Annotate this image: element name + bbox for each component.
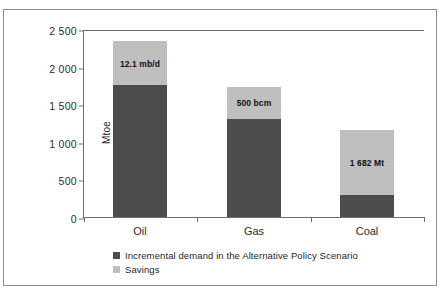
stacked-bar-coal[interactable]: 1 682 Mt — [340, 130, 394, 217]
bar-group-oil: 12.1 mb/d Oil — [113, 31, 167, 217]
legend-label-demand: Incremental demand in the Alternative Po… — [125, 250, 358, 261]
x-axis-label-gas: Gas — [244, 225, 264, 237]
y-tick-label-1500: 1 500 — [49, 100, 84, 112]
bar-segment-savings-gas[interactable]: 500 bcm — [227, 87, 281, 119]
legend-item-demand[interactable]: Incremental demand in the Alternative Po… — [113, 250, 358, 261]
legend-label-savings: Savings — [125, 264, 160, 275]
bar-annotation-oil: 12.1 mb/d — [113, 59, 167, 69]
x-axis-label-oil: Oil — [133, 225, 146, 237]
bar-segment-savings-coal[interactable]: 1 682 Mt — [340, 130, 394, 195]
legend-swatch-savings-icon — [113, 266, 120, 273]
x-tick-mark-1 — [197, 217, 198, 222]
bar-segment-demand-coal[interactable] — [340, 195, 394, 217]
y-tick-label-500: 500 — [59, 175, 84, 187]
stacked-bar-gas[interactable]: 500 bcm — [227, 87, 281, 217]
bar-annotation-gas: 500 bcm — [227, 98, 281, 108]
x-tick-mark-3 — [424, 217, 425, 222]
y-tick-label-0: 0 — [71, 213, 84, 225]
plot-area: Mtoe 2 500 2 000 1 500 1 000 500 0 12.1 … — [83, 30, 424, 218]
y-tick-label-2000: 2 000 — [49, 63, 84, 75]
bar-group-gas: 500 bcm Gas — [227, 31, 281, 217]
x-tick-mark-0 — [84, 217, 85, 222]
y-tick-label-2500: 2 500 — [49, 25, 84, 37]
y-axis-title: Mtoe — [101, 103, 112, 163]
bar-annotation-coal: 1 682 Mt — [340, 158, 394, 168]
legend-swatch-demand-icon — [113, 252, 120, 259]
stacked-bar-oil[interactable]: 12.1 mb/d — [113, 41, 167, 217]
legend-item-savings[interactable]: Savings — [113, 264, 358, 275]
x-tick-mark-2 — [311, 217, 312, 222]
chart-figure: Mtoe 2 500 2 000 1 500 1 000 500 0 12.1 … — [0, 0, 441, 290]
bar-group-coal: 1 682 Mt Coal — [340, 31, 394, 217]
bar-segment-demand-gas[interactable] — [227, 119, 281, 217]
y-tick-label-1000: 1 000 — [49, 138, 84, 150]
bar-segment-demand-oil[interactable] — [113, 85, 167, 217]
x-axis-label-coal: Coal — [356, 225, 379, 237]
bar-segment-savings-oil[interactable]: 12.1 mb/d — [113, 41, 167, 85]
chart-legend: Incremental demand in the Alternative Po… — [113, 250, 358, 278]
